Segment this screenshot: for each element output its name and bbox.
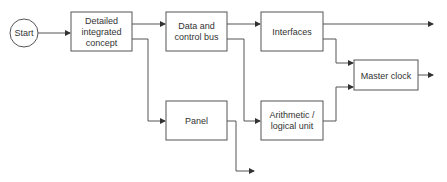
edge-panel-output <box>227 121 254 171</box>
node-panel: Panel <box>166 101 227 140</box>
svg-text:Panel: Panel <box>185 116 208 126</box>
edge-bus-to-alu <box>227 39 260 121</box>
edge-interfaces-to-clock <box>323 39 353 63</box>
node-master-clock: Master clock <box>354 60 418 90</box>
node-data-and-control-bus: Data and control bus <box>166 12 227 51</box>
edge-alu-to-clock <box>323 87 353 121</box>
svg-text:Start: Start <box>14 28 34 38</box>
svg-text:Master clock: Master clock <box>361 71 412 81</box>
node-interfaces: Interfaces <box>261 12 323 51</box>
svg-text:Interfaces: Interfaces <box>272 27 312 37</box>
svg-text:logical unit: logical unit <box>271 121 314 131</box>
node-arithmetic-logical-unit: Arithmetic / logical unit <box>261 101 323 140</box>
flowchart-diagram: Start Detailed integrated concept Data a… <box>0 0 447 182</box>
svg-text:Detailed: Detailed <box>85 16 118 26</box>
svg-text:Data and: Data and <box>178 21 215 31</box>
svg-text:concept: concept <box>86 38 118 48</box>
node-detailed-integrated-concept: Detailed integrated concept <box>71 12 132 51</box>
node-start: Start <box>10 19 38 47</box>
svg-text:control bus: control bus <box>174 32 219 42</box>
svg-text:integrated: integrated <box>81 27 121 37</box>
edge-concept-to-panel <box>132 39 165 121</box>
svg-text:Arithmetic /: Arithmetic / <box>269 110 315 120</box>
